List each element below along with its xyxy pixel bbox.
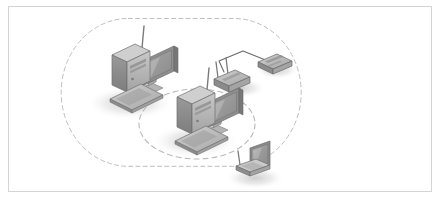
diagram-scene — [0, 0, 447, 207]
antenna-icon — [238, 151, 240, 165]
antenna-icon — [142, 26, 144, 48]
antenna-icon — [207, 68, 209, 90]
isometric-network-svg — [0, 0, 447, 207]
network-diagram-figure: Wireless network topology diagram Deskto… — [0, 0, 447, 207]
